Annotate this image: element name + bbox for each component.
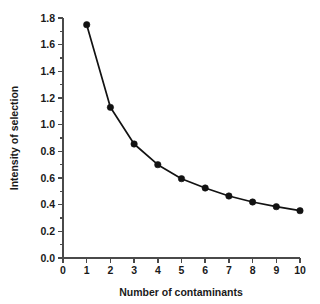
y-tick-label: 0.2 bbox=[40, 225, 55, 237]
y-tick-label: 0.8 bbox=[40, 145, 55, 157]
x-tick-label: 6 bbox=[202, 264, 208, 276]
data-point-marker bbox=[226, 193, 232, 199]
data-point-marker bbox=[178, 175, 184, 181]
data-point-marker bbox=[202, 185, 208, 191]
y-tick-label: 1.8 bbox=[40, 12, 55, 24]
y-tick-label: 1.4 bbox=[40, 65, 55, 77]
data-point-marker bbox=[273, 203, 279, 209]
y-tick-label: 1.0 bbox=[40, 118, 55, 130]
x-tick-label: 3 bbox=[131, 264, 137, 276]
x-tick-label: 10 bbox=[294, 264, 306, 276]
chart-figure: 0.00.20.40.60.81.01.21.41.61.8 012345678… bbox=[0, 0, 320, 304]
y-tick-label: 1.2 bbox=[40, 92, 55, 104]
y-tick-label: 0.4 bbox=[40, 198, 55, 210]
data-point-marker bbox=[249, 199, 255, 205]
x-axis-tick-labels: 012345678910 bbox=[60, 264, 306, 276]
data-point-marker bbox=[131, 141, 137, 147]
y-tick-label: 0.6 bbox=[40, 172, 55, 184]
x-tick-label: 2 bbox=[107, 264, 113, 276]
data-point-marker bbox=[155, 161, 161, 167]
y-tick-label: 1.6 bbox=[40, 38, 55, 50]
x-tick-label: 7 bbox=[226, 264, 232, 276]
x-tick-label: 1 bbox=[84, 264, 90, 276]
x-tick-label: 9 bbox=[273, 264, 279, 276]
x-tick-label: 4 bbox=[155, 264, 161, 276]
y-axis-tick-labels: 0.00.20.40.60.81.01.21.41.61.8 bbox=[40, 12, 55, 264]
data-point-marker bbox=[84, 21, 90, 27]
y-tick-label: 0.0 bbox=[40, 252, 55, 264]
x-tick-label: 8 bbox=[250, 264, 256, 276]
line-chart: 0.00.20.40.60.81.01.21.41.61.8 012345678… bbox=[0, 0, 320, 304]
y-axis-title: Intensity of selection bbox=[8, 86, 20, 190]
x-tick-label: 0 bbox=[60, 264, 66, 276]
data-point-marker bbox=[107, 104, 113, 110]
x-tick-label: 5 bbox=[179, 264, 185, 276]
data-point-marker bbox=[297, 207, 303, 213]
data-series-line bbox=[87, 25, 300, 211]
x-axis-title: Number of contaminants bbox=[119, 286, 243, 298]
